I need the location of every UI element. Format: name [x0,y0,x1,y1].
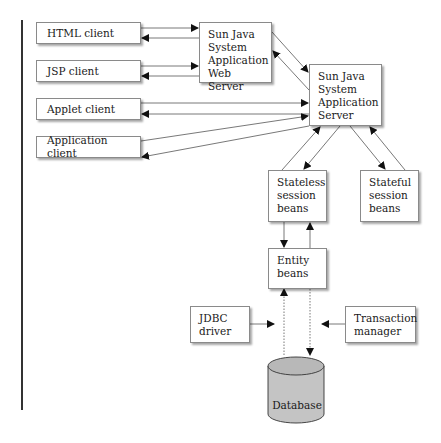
app-server-line-4: Server [318,109,373,122]
web-server-node: Sun Java System Application Web Server [199,22,272,83]
stateless-line-1: Stateless [277,176,318,189]
applet-client-label: Applet client [47,103,115,116]
stateful-line-2: session [369,189,410,202]
app-server-line-1: Sun Java [318,70,373,83]
application-client-label: Application client [47,134,140,160]
web-server-line-4: Web Server [208,67,263,93]
entity-line-2: beans [277,267,318,280]
margin-rule [21,20,23,410]
app-server-line-3: Application [318,96,373,109]
app-server-line-2: System [318,83,373,96]
entity-line-1: Entity [277,254,318,267]
transaction-manager-node: Transaction manager [345,306,416,343]
stateful-line-1: Stateful [369,176,410,189]
web-server-line-2: System [208,41,263,54]
web-server-line-1: Sun Java [208,28,263,41]
jdbc-line-1: JDBC [199,312,241,325]
transaction-line-2: manager [354,325,407,338]
stateless-beans-node: Stateless session beans [268,170,327,222]
application-client-node: Application client [36,136,141,158]
web-server-line-3: Application [208,54,263,67]
stateful-beans-node: Stateful session beans [360,170,419,222]
jdbc-line-2: driver [199,325,241,338]
database-label: Database [268,399,326,411]
html-client-label: HTML client [47,27,114,40]
stateful-line-3: beans [369,202,410,215]
stateless-line-2: session [277,189,318,202]
database-cylinder [268,357,324,423]
stateless-line-3: beans [277,202,318,215]
html-client-node: HTML client [36,22,141,44]
transaction-line-1: Transaction [354,312,407,325]
jsp-client-node: JSP client [36,60,141,82]
app-server-node: Sun Java System Application Server [309,64,382,126]
jsp-client-label: JSP client [47,65,99,78]
applet-client-node: Applet client [36,98,141,120]
entity-beans-node: Entity beans [268,248,327,289]
jdbc-driver-node: JDBC driver [190,306,250,343]
